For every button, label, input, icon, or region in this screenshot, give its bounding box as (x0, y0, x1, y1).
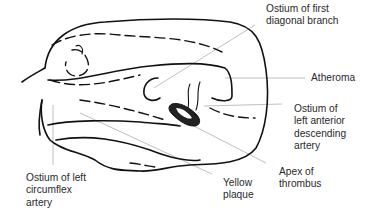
vessel-outer-outline (41, 19, 267, 171)
lad-fold-1 (188, 84, 190, 108)
first-diagonal-ostium (144, 78, 160, 100)
label-line: artery (26, 197, 86, 209)
label-atheroma: Atheroma (311, 72, 355, 84)
circumflex-ostium (65, 50, 88, 76)
vessel-left-edge (22, 68, 45, 82)
label-line: descending (294, 128, 346, 140)
lad-fold-2 (196, 82, 200, 110)
label-first-diagonal-branch: Ostium of first diagonal branch (266, 3, 339, 28)
leader-lad (204, 104, 282, 106)
leader-apex-thrombus (192, 125, 266, 163)
leader-first-diagonal (154, 25, 255, 88)
inner-top-ridge (48, 64, 232, 101)
label-lad-ostium: Ostium of left anterior descending arter… (294, 103, 346, 153)
label-line: Apex of (279, 166, 321, 178)
vessel-lower-band (48, 121, 180, 126)
label-line: Ostium of (294, 103, 346, 115)
lad-ridge-dash (210, 108, 255, 118)
label-circumflex-ostium: Ostium of left circumflex artery (26, 172, 86, 209)
label-yellow-plaque: Yellow plaque (223, 177, 254, 202)
label-line: Ostium of first (266, 3, 339, 15)
label-line: left anterior (294, 115, 346, 127)
label-line: circumflex (26, 184, 86, 196)
label-line: diagonal branch (266, 15, 339, 27)
label-line: artery (294, 140, 346, 152)
label-line: thrombus (279, 178, 321, 190)
label-line: plaque (223, 189, 254, 201)
label-line: Yellow (223, 177, 254, 189)
inner-lower-dash (80, 100, 165, 120)
label-apex-thrombus: Apex of thrombus (279, 166, 321, 191)
label-line: Atheroma (311, 72, 355, 84)
label-line: Ostium of left (26, 172, 86, 184)
vessel-lower-band-2 (56, 138, 200, 161)
bottom-dash (130, 163, 155, 167)
